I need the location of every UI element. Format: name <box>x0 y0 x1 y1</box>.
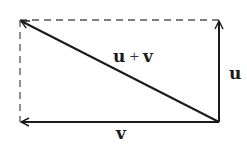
label-u: u <box>229 63 241 83</box>
label-sum-u: u <box>113 46 125 66</box>
vector-addition-diagram: u+v u v <box>0 0 247 153</box>
label-sum-plus: + <box>129 47 139 66</box>
label-v: v <box>115 123 127 143</box>
label-sum: u+v <box>113 46 154 66</box>
vector-sum-arrow <box>21 21 219 122</box>
label-sum-v: v <box>142 46 154 66</box>
